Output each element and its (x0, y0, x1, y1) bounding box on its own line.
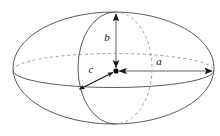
equator-back-dashed (13, 54, 214, 71)
ellipsoid-outline (13, 12, 214, 124)
ellipsoid-diagram-canvas: b a c (0, 0, 220, 136)
axis-label-a: a (156, 55, 162, 67)
meridian-back-dashed (115, 12, 152, 124)
meridian-front-solid (78, 12, 115, 124)
ellipsoid-figure: b a c (0, 0, 220, 136)
axis-label-c: c (89, 63, 94, 75)
axis-c-arrow (80, 73, 113, 90)
equator-front-solid (13, 71, 214, 88)
ellipsoid-center-dot (113, 68, 118, 73)
axis-label-b: b (104, 31, 110, 43)
